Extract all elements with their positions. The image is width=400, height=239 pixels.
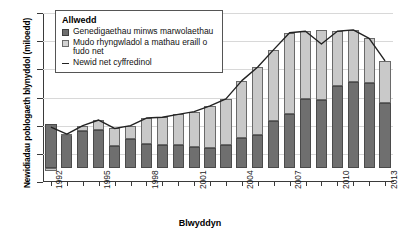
bar-stack bbox=[300, 13, 311, 182]
x-axis-tick bbox=[162, 181, 163, 186]
x-axis-tick bbox=[258, 181, 259, 186]
x-axis-tick bbox=[115, 181, 116, 186]
bar-segment-migration bbox=[316, 30, 327, 100]
x-axis-tick bbox=[194, 181, 195, 186]
bar-segment-births bbox=[252, 135, 263, 168]
bar-segment-migration bbox=[220, 99, 231, 145]
x-axis-title: Blwyddyn bbox=[0, 218, 400, 228]
y-axis-tick bbox=[37, 69, 43, 70]
bar-segment-migration bbox=[236, 81, 247, 139]
x-axis-label: 1998 bbox=[150, 170, 160, 189]
legend-label-births: Genedigaethau minws marwolaethau bbox=[73, 27, 213, 37]
bar-segment-births bbox=[332, 86, 343, 168]
legend-title: Allwedd bbox=[62, 15, 217, 25]
bar-stack bbox=[236, 13, 247, 182]
bar-segment-births bbox=[173, 145, 184, 168]
bar-segment-births bbox=[316, 100, 327, 168]
legend-swatch-icon-births bbox=[62, 29, 69, 36]
bar-segment-migration bbox=[204, 106, 215, 148]
x-axis-tick bbox=[337, 181, 338, 186]
x-axis-tick bbox=[51, 181, 52, 186]
x-axis-tick bbox=[210, 181, 211, 186]
x-axis-label: 1992 bbox=[54, 170, 64, 189]
bar-segment-migration bbox=[332, 31, 343, 86]
bar-segment-migration bbox=[125, 126, 136, 139]
bar-segment-migration bbox=[300, 31, 311, 99]
x-axis-tick bbox=[226, 181, 227, 186]
bar-segment-births bbox=[364, 83, 375, 168]
y-axis-tick bbox=[37, 13, 43, 14]
x-axis-tick bbox=[178, 181, 179, 186]
y-axis-tick bbox=[37, 182, 43, 183]
legend-label-migration: Mudo rhyngwladol a mathau eraill o fudo … bbox=[73, 38, 217, 57]
x-axis-label: 2013 bbox=[389, 170, 399, 189]
x-axis-tick bbox=[306, 181, 307, 186]
bar-segment-births bbox=[348, 82, 359, 168]
bar-segment-migration bbox=[157, 117, 168, 145]
chart-figure: Newidiadau poblogaeth blynyddol (miloedd… bbox=[0, 0, 400, 239]
legend-line-icon-net-change bbox=[62, 60, 69, 67]
x-axis-tick bbox=[321, 181, 322, 186]
x-axis-tick bbox=[131, 181, 132, 186]
bar-stack bbox=[252, 13, 263, 182]
legend-item-overall-net-change: Newid net cyffredinol bbox=[62, 58, 217, 68]
y-axis-tick bbox=[37, 41, 43, 42]
bar-segment-migration bbox=[379, 61, 390, 103]
x-axis-tick bbox=[290, 181, 291, 186]
bar-segment-migration bbox=[268, 50, 279, 122]
y-axis-tick bbox=[37, 98, 43, 99]
bar-segment-births bbox=[45, 124, 56, 168]
bar-segment-births bbox=[77, 131, 88, 168]
bar-segment-births bbox=[220, 145, 231, 168]
bar-segment-migration bbox=[252, 67, 263, 135]
bar-segment-births bbox=[284, 114, 295, 168]
bar-segment-births bbox=[109, 146, 120, 168]
x-axis-label: 2010 bbox=[341, 170, 351, 189]
bar-segment-migration bbox=[364, 38, 375, 83]
x-axis-tick bbox=[146, 181, 147, 186]
bar-segment-births bbox=[268, 121, 279, 167]
y-axis-tick bbox=[37, 126, 43, 127]
bar-segment-births bbox=[93, 130, 104, 168]
bar-segment-births bbox=[204, 148, 215, 168]
legend-item-births-minus-deaths: Genedigaethau minws marwolaethau bbox=[62, 27, 217, 37]
y-axis-title: Newidiadau poblogaeth blynyddol (miloedd… bbox=[22, 13, 32, 193]
x-axis-label: 2004 bbox=[245, 170, 255, 189]
x-axis-tick bbox=[99, 181, 100, 186]
bar-segment-migration bbox=[141, 118, 152, 144]
x-axis-tick bbox=[83, 181, 84, 186]
x-axis-tick bbox=[369, 181, 370, 186]
x-axis-tick bbox=[274, 181, 275, 186]
x-axis-tick bbox=[67, 181, 68, 186]
bar-stack bbox=[268, 13, 279, 182]
bar-segment-births bbox=[157, 145, 168, 168]
bar-segment-migration bbox=[348, 30, 359, 82]
bar-segment-migration bbox=[189, 112, 200, 147]
x-axis-tick bbox=[385, 181, 386, 186]
x-axis-tick bbox=[353, 181, 354, 186]
bar-segment-migration bbox=[93, 120, 104, 130]
bar-segment-migration bbox=[61, 134, 72, 136]
bar-stack bbox=[316, 13, 327, 182]
x-axis-tick bbox=[242, 181, 243, 186]
bar-segment-migration bbox=[284, 33, 295, 115]
legend-label-net-change: Newid net cyffredinol bbox=[73, 58, 152, 68]
bar-segment-births bbox=[125, 139, 136, 168]
y-axis-tick bbox=[37, 154, 43, 155]
bar-segment-births bbox=[141, 144, 152, 168]
bar-segment-migration bbox=[173, 114, 184, 145]
bar-segment-births bbox=[61, 134, 72, 168]
bar-segment-births bbox=[379, 103, 390, 168]
bar-segment-migration bbox=[109, 128, 120, 145]
x-axis-label: 2001 bbox=[198, 170, 208, 189]
bar-stack bbox=[348, 13, 359, 182]
bar-stack bbox=[379, 13, 390, 182]
x-axis-label: 2007 bbox=[293, 170, 303, 189]
legend-swatch-icon-migration bbox=[62, 40, 69, 47]
bar-segment-births bbox=[236, 138, 247, 168]
x-axis-label: 1995 bbox=[102, 170, 112, 189]
bar-segment-migration bbox=[77, 126, 88, 132]
bar-stack bbox=[364, 13, 375, 182]
chart-legend: Allwedd Genedigaethau minws marwolaethau… bbox=[55, 10, 223, 73]
legend-item-net-migration: Mudo rhyngwladol a mathau eraill o fudo … bbox=[62, 38, 217, 57]
